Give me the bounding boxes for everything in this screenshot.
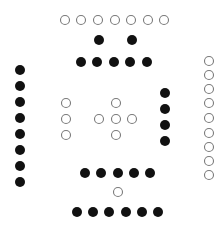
open-dot bbox=[114, 188, 123, 197]
filled-dot bbox=[15, 145, 25, 155]
open-dot bbox=[205, 99, 214, 108]
filled-dot bbox=[160, 120, 170, 130]
filled-dot bbox=[15, 113, 25, 123]
right-open-column bbox=[205, 57, 214, 180]
filled-dot bbox=[160, 88, 170, 98]
open-dot bbox=[205, 71, 214, 80]
filled-dot bbox=[88, 207, 98, 217]
filled-dot bbox=[125, 57, 135, 67]
upper-filled-row bbox=[76, 57, 152, 67]
center-open-plus bbox=[95, 99, 137, 140]
filled-dot bbox=[113, 168, 123, 178]
lower-filled-row bbox=[80, 168, 155, 178]
filled-dot bbox=[121, 207, 131, 217]
top-open-row bbox=[61, 16, 169, 25]
middle-left-open-column bbox=[62, 99, 71, 140]
open-dot bbox=[94, 16, 103, 25]
open-dot bbox=[205, 157, 214, 166]
open-dot bbox=[62, 99, 71, 108]
filled-dot bbox=[129, 168, 139, 178]
top-filled-pair bbox=[94, 35, 137, 45]
open-dot bbox=[112, 131, 121, 140]
filled-dot bbox=[72, 207, 82, 217]
open-dot bbox=[61, 16, 70, 25]
open-dot bbox=[160, 16, 169, 25]
open-dot bbox=[77, 16, 86, 25]
open-dot bbox=[111, 16, 120, 25]
bottom-single-open bbox=[114, 188, 123, 197]
open-dot bbox=[205, 57, 214, 66]
open-dot bbox=[128, 115, 137, 124]
filled-dot bbox=[76, 57, 86, 67]
filled-dot bbox=[80, 168, 90, 178]
filled-dot bbox=[142, 57, 152, 67]
filled-dot bbox=[92, 57, 102, 67]
filled-dot bbox=[160, 136, 170, 146]
filled-dot bbox=[15, 97, 25, 107]
right-filled-column bbox=[160, 88, 170, 146]
filled-dot bbox=[15, 65, 25, 75]
dot-pattern-diagram bbox=[0, 0, 224, 229]
open-dot bbox=[62, 131, 71, 140]
filled-dot bbox=[160, 104, 170, 114]
filled-dot bbox=[15, 161, 25, 171]
filled-dot bbox=[15, 177, 25, 187]
open-dot bbox=[62, 115, 71, 124]
filled-dot bbox=[153, 207, 163, 217]
open-dot bbox=[205, 171, 214, 180]
filled-dot bbox=[109, 57, 119, 67]
filled-dot bbox=[104, 207, 114, 217]
open-dot bbox=[205, 85, 214, 94]
open-dot bbox=[127, 16, 136, 25]
filled-dot bbox=[15, 129, 25, 139]
open-dot bbox=[112, 99, 121, 108]
filled-dot bbox=[145, 168, 155, 178]
filled-dot bbox=[137, 207, 147, 217]
open-dot bbox=[144, 16, 153, 25]
open-dot bbox=[95, 115, 104, 124]
open-dot bbox=[205, 143, 214, 152]
filled-dot bbox=[127, 35, 137, 45]
filled-dot bbox=[96, 168, 106, 178]
bottom-filled-row bbox=[72, 207, 163, 217]
left-filled-column bbox=[15, 65, 25, 187]
open-dot bbox=[112, 115, 121, 124]
filled-dot bbox=[94, 35, 104, 45]
open-dot bbox=[205, 114, 214, 123]
open-dot bbox=[205, 129, 214, 138]
filled-dot bbox=[15, 81, 25, 91]
